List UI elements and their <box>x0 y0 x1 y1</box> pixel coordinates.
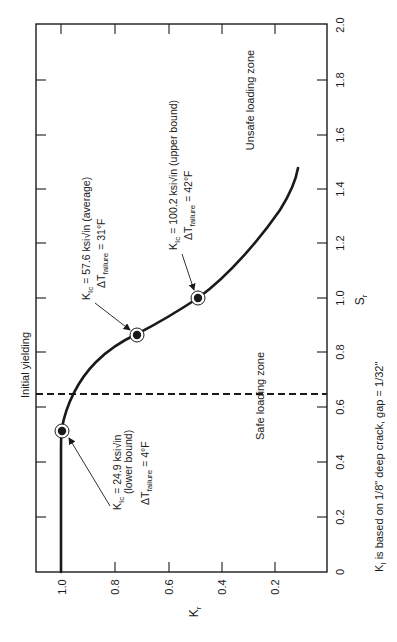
kr-tick-labels: 1.0 0.8 0.6 0.4 0.2 <box>56 579 281 594</box>
svg-text:1.0: 1.0 <box>334 290 346 305</box>
sr-axis-ticks-left <box>36 80 46 517</box>
chart-canvas: 0 0.2 0.4 0.6 0.8 1.0 1.2 1.4 1.6 1.8 2.… <box>0 0 397 642</box>
svg-text:KIc = 57.6 ksi√in (average): KIc = 57.6 ksi√in (average) <box>80 177 95 300</box>
svg-text:KIc = 100.2 ksi√in (upper boun: KIc = 100.2 ksi√in (upper bound) <box>167 100 182 250</box>
svg-text:0.4: 0.4 <box>216 579 228 594</box>
initial-yielding-label: Initial yielding <box>19 332 31 398</box>
svg-text:ΔTfailure = 4°F: ΔTfailure = 4°F <box>139 441 154 505</box>
svg-text:ΔTfailure = 31°F: ΔTfailure = 31°F <box>95 219 110 289</box>
svg-text:1.6: 1.6 <box>334 127 346 142</box>
point-lower-bound <box>55 424 69 438</box>
sr-axis-ticks <box>317 80 327 517</box>
svg-text:0.2: 0.2 <box>269 579 281 594</box>
svg-text:0.6: 0.6 <box>163 579 175 594</box>
safe-zone-label: Safe loading zone <box>254 352 266 440</box>
svg-text:(lower bound): (lower bound) <box>122 430 134 494</box>
unsafe-zone-label: Unsafe loading zone <box>244 50 256 150</box>
kr-axis-ticks <box>115 562 275 572</box>
svg-text:2.0: 2.0 <box>334 17 346 32</box>
svg-text:0.8: 0.8 <box>109 579 121 594</box>
point-average <box>130 328 144 342</box>
svg-text:ΔTfailure = 42°F: ΔTfailure = 42°F <box>182 171 197 241</box>
svg-text:1.0: 1.0 <box>56 579 68 594</box>
svg-text:0: 0 <box>334 569 346 575</box>
annotation-average: KIc = 57.6 ksi√in (average) ΔTfailure = … <box>80 177 110 300</box>
arrow-lower-bound <box>69 438 110 506</box>
point-upper-bound <box>191 291 205 305</box>
svg-text:1.8: 1.8 <box>334 72 346 87</box>
svg-text:1.4: 1.4 <box>334 181 346 196</box>
sr-tick-labels: 0 0.2 0.4 0.6 0.8 1.0 1.2 1.4 1.6 1.8 2.… <box>334 17 346 575</box>
svg-text:1.2: 1.2 <box>334 235 346 250</box>
x-axis-title: Sr <box>353 294 369 305</box>
arrow-upper-bound <box>182 254 194 290</box>
arrow-average <box>95 303 130 330</box>
kr-axis-ticks-top <box>61 24 275 34</box>
annotation-lower-bound: KIc = 24.9 ksi√in (lower bound) ΔTfailur… <box>111 430 154 510</box>
y-axis-title: Kr <box>187 606 203 617</box>
svg-text:0.4: 0.4 <box>334 454 346 469</box>
svg-text:0.6: 0.6 <box>334 399 346 414</box>
svg-text:0.8: 0.8 <box>334 344 346 359</box>
footnote: KI is based on 1/8" deep crack, gap = 1/… <box>373 362 388 572</box>
svg-text:0.2: 0.2 <box>334 509 346 524</box>
annotation-upper-bound: KIc = 100.2 ksi√in (upper bound) ΔTfailu… <box>167 100 197 250</box>
